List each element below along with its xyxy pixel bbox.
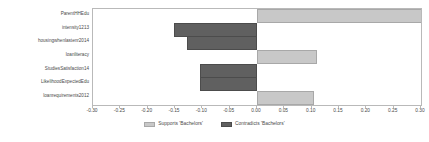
bar-row <box>93 36 421 50</box>
bar-supports <box>257 50 317 64</box>
chart-legend: Supports 'Bachelors'Contradicts 'Bachelo… <box>0 122 429 127</box>
x-axis-tick-label: 0.05 <box>279 109 288 114</box>
bar-supports <box>257 91 314 105</box>
x-axis-tick-label: 0.15 <box>333 109 342 114</box>
x-axis-tick-label: 0.20 <box>361 109 370 114</box>
y-axis-label: loanliteracy <box>0 53 92 58</box>
x-axis-tick-label: 0.30 <box>415 109 424 114</box>
x-axis-tick-label: 0.00 <box>251 109 260 114</box>
bar-row <box>93 9 421 23</box>
legend-label: Contradicts 'Bachelors' <box>235 122 285 127</box>
y-axis-label: loanrequirements2012 <box>0 94 92 99</box>
y-axis-label: housingwhenlastenr2014 <box>0 39 92 44</box>
bar-supports <box>257 9 422 23</box>
x-axis-tick-label: -0.25 <box>114 109 125 114</box>
x-axis-tick-labels: -0.30-0.25-0.20-0.15-0.10-0.050.000.050.… <box>92 109 422 118</box>
plot-area <box>92 8 422 106</box>
x-axis-tick-label: -0.30 <box>87 109 98 114</box>
legend-entry[interactable]: Supports 'Bachelors' <box>144 122 203 127</box>
y-axis-label: LikelihoodExpectedEdu <box>0 80 92 85</box>
x-axis-tick-label: 0.25 <box>388 109 397 114</box>
bar-contradicts <box>187 36 257 50</box>
bar-contradicts <box>200 64 257 78</box>
y-axis-category-labels: ParentHHEduintensity1213housingwhenlaste… <box>0 8 92 106</box>
bar-row <box>93 77 421 91</box>
y-axis-label: ParentHHEdu <box>0 12 92 17</box>
legend-label: Supports 'Bachelors' <box>158 122 203 127</box>
y-axis-label: StudiesSatisfaction14 <box>0 67 92 72</box>
legend-swatch-neg <box>221 122 232 127</box>
legend-entry[interactable]: Contradicts 'Bachelors' <box>221 122 285 127</box>
bar-row <box>93 23 421 37</box>
bar-row <box>93 50 421 64</box>
y-axis-label: intensity1213 <box>0 26 92 31</box>
x-axis-tick-label: -0.10 <box>196 109 207 114</box>
x-axis-tick-label: -0.05 <box>223 109 234 114</box>
bar-row <box>93 64 421 78</box>
bar-row <box>93 91 421 105</box>
legend-swatch-pos <box>144 122 155 127</box>
bar-chart: ParentHHEduintensity1213housingwhenlaste… <box>0 0 429 142</box>
x-axis-tick-label: 0.10 <box>306 109 315 114</box>
bar-contradicts <box>200 77 257 91</box>
x-axis-tick-label: -0.20 <box>141 109 152 114</box>
bar-contradicts <box>174 23 257 37</box>
x-axis-tick-label: -0.15 <box>169 109 180 114</box>
